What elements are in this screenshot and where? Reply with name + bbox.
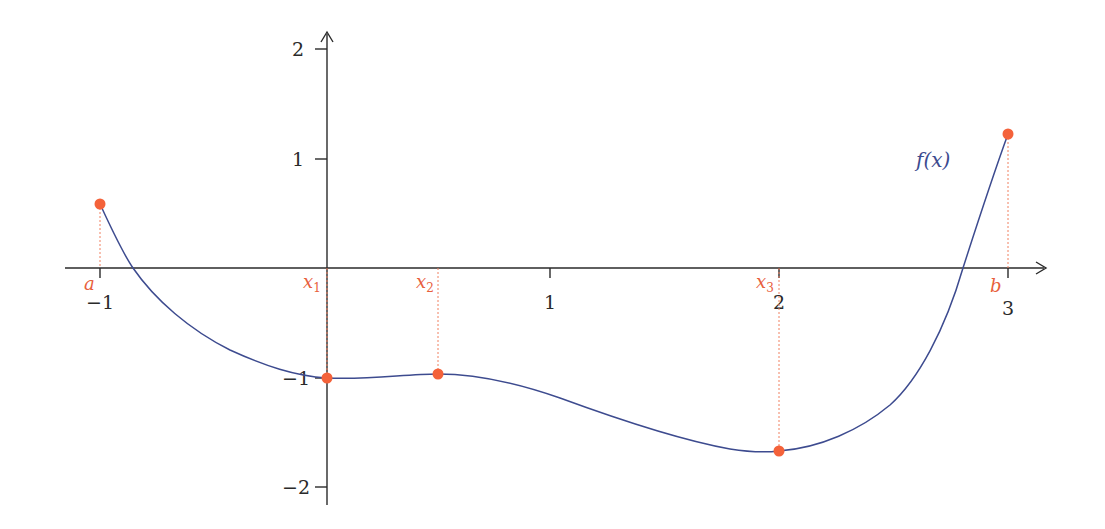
x-tick-label-3: 3 <box>1002 297 1014 319</box>
label-x2-base: x <box>416 271 426 292</box>
y-tick-label-2: 2 <box>292 38 304 60</box>
y-tick-label--2: −2 <box>282 476 310 498</box>
label-x1-base: x <box>303 271 313 292</box>
label-x3: x3 <box>756 271 774 295</box>
label-x3-base: x <box>756 271 766 292</box>
x-tick-label--1: −1 <box>86 291 114 313</box>
label-b: b <box>990 275 1002 296</box>
point-x2 <box>433 369 444 380</box>
y-tick-label--1: −1 <box>282 367 310 389</box>
function-label: f(x) <box>914 148 950 172</box>
label-x2: x2 <box>416 271 434 295</box>
label-x1: x1 <box>303 271 321 295</box>
label-x1-sub: 1 <box>313 281 321 295</box>
x-tick-label-1: 1 <box>544 291 556 313</box>
point-x1 <box>322 373 333 384</box>
y-tick-label-1: 1 <box>292 148 304 170</box>
label-x2-sub: 2 <box>426 281 434 295</box>
function-plot: −1 1 2 3 2 1 −1 −2 a x1 x2 x3 b f(x) <box>0 0 1105 529</box>
point-a <box>95 199 106 210</box>
point-x3 <box>774 446 785 457</box>
label-x3-sub: 3 <box>766 281 774 295</box>
label-a: a <box>84 273 95 294</box>
axes: −1 1 2 3 2 1 −1 −2 <box>65 32 1046 505</box>
point-b <box>1003 129 1014 140</box>
